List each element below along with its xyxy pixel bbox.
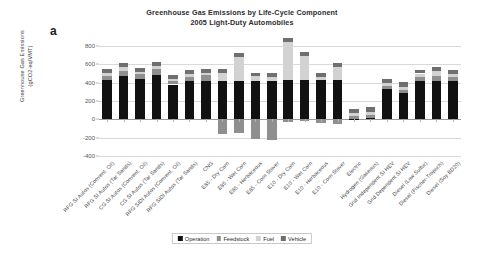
legend-label-fuel: Fuel — [263, 236, 274, 242]
bar-group — [102, 46, 112, 156]
y-tick-label-400: 400 — [85, 80, 95, 86]
bar-segment-fuel — [218, 73, 228, 81]
bar-segment-fuel — [251, 76, 261, 81]
chart-title-line-1: Greenhouse Gas Emissions by Life-Cycle C… — [0, 8, 484, 18]
bar-segment-feedstock — [135, 74, 145, 78]
bar-segment-operation — [399, 93, 409, 120]
bar-segment-fuel — [300, 56, 310, 81]
bar-group — [135, 46, 145, 156]
bar-group — [333, 46, 343, 156]
bar-segment-operation — [300, 80, 310, 119]
bar-segment-feedstock — [432, 76, 442, 81]
x-tick-mark — [387, 119, 388, 122]
bar-segment-fuel — [415, 74, 425, 77]
bar-segment-feedstock — [267, 119, 277, 140]
chart-legend: OperationFeedstockFuelVehicle — [172, 233, 312, 244]
x-tick-mark — [436, 119, 437, 122]
chart-title: Greenhouse Gas Emissions by Life-Cycle C… — [0, 8, 484, 28]
bar-segment-vehicle — [218, 69, 228, 73]
bar-segment-fuel — [448, 74, 458, 77]
legend-item-fuel[interactable]: Fuel — [256, 236, 274, 242]
bar-segment-fuel — [201, 73, 211, 76]
x-tick-mark — [321, 119, 322, 122]
bar-segment-operation — [102, 80, 112, 119]
bar-segment-fuel — [102, 73, 112, 76]
bar-segment-operation — [234, 81, 244, 119]
bar-segment-vehicle — [448, 70, 458, 74]
bar-segment-operation — [119, 76, 129, 119]
bar-segment-fuel — [152, 66, 162, 70]
bar-segment-feedstock — [185, 77, 195, 81]
legend-swatch-fuel — [256, 236, 261, 241]
bar-segment-fuel — [234, 57, 244, 81]
bar-segment-vehicle — [432, 67, 442, 71]
x-tick-mark — [305, 119, 306, 122]
bar-segment-vehicle — [333, 63, 343, 67]
y-axis-title-line-2: (gCO2-eq/VMT) — [26, 0, 34, 136]
bar-segment-vehicle — [366, 107, 376, 111]
x-tick-mark — [107, 119, 108, 122]
y-tick-label-800: 800 — [85, 43, 95, 49]
bar-group — [201, 46, 211, 156]
x-tick-mark — [272, 119, 273, 122]
bar-group — [300, 46, 310, 156]
bar-group — [152, 46, 162, 156]
bar-segment-operation — [283, 80, 293, 119]
bar-group — [168, 46, 178, 156]
bar-segment-fuel — [283, 42, 293, 81]
x-tick-mark — [420, 119, 421, 122]
x-axis-label: CNG — [201, 160, 214, 173]
bar-group — [267, 46, 277, 156]
legend-item-vehicle[interactable]: Vehicle — [281, 236, 306, 242]
bar-segment-fuel — [432, 71, 442, 76]
bar-segment-operation — [168, 85, 178, 120]
chart-figure: a Greenhouse Gas Emissions by Life-Cycle… — [0, 0, 484, 261]
bar-group — [432, 46, 442, 156]
x-tick-mark — [173, 119, 174, 122]
x-tick-mark — [124, 119, 125, 122]
bar-segment-vehicle — [251, 73, 261, 77]
bar-segment-vehicle — [234, 53, 244, 57]
y-axis-title-line-1: Greenhouse Gas Emissions — [18, 0, 26, 136]
bar-segment-vehicle — [316, 73, 326, 77]
bar-group — [234, 46, 244, 156]
bar-group — [448, 46, 458, 156]
bar-segment-feedstock — [119, 71, 129, 77]
bar-segment-vehicle — [415, 70, 425, 74]
bar-segment-operation — [152, 75, 162, 119]
bar-segment-fuel — [349, 113, 359, 116]
x-tick-mark — [189, 119, 190, 122]
bar-segment-operation — [415, 81, 425, 120]
bar-segment-operation — [448, 81, 458, 120]
bar-segment-vehicle — [185, 70, 195, 74]
x-tick-mark — [453, 119, 454, 122]
bar-segment-vehicle — [119, 63, 129, 67]
x-tick-mark — [239, 119, 240, 122]
legend-item-feedstock[interactable]: Feedstock — [216, 236, 249, 242]
legend-swatch-operation — [178, 236, 183, 241]
bar-segment-operation — [201, 81, 211, 120]
bar-segment-operation — [333, 80, 343, 119]
bar-segment-operation — [218, 81, 228, 119]
x-axis-labels: RFG SI Autos (Convent. Oil)RFG SI Autos … — [99, 160, 461, 230]
gridline--400 — [99, 156, 461, 157]
legend-label-operation: Operation — [185, 236, 210, 242]
bar-group — [382, 46, 392, 156]
bar-segment-fuel — [185, 74, 195, 77]
bar-segment-feedstock — [201, 75, 211, 81]
bar-segment-operation — [135, 79, 145, 120]
legend-item-operation[interactable]: Operation — [178, 236, 210, 242]
bar-segment-vehicle — [168, 75, 178, 79]
x-tick-mark — [354, 119, 355, 122]
bar-segment-feedstock — [415, 77, 425, 81]
bar-group — [218, 46, 228, 156]
legend-label-feedstock: Feedstock — [223, 236, 249, 242]
bar-segment-feedstock — [399, 90, 409, 93]
x-tick-mark — [403, 119, 404, 122]
bar-group — [316, 46, 326, 156]
bar-segment-fuel — [267, 77, 277, 82]
bar-segment-fuel — [333, 67, 343, 81]
bar-series-group — [99, 46, 461, 156]
x-tick-mark — [222, 119, 223, 122]
bar-segment-operation — [316, 80, 326, 119]
